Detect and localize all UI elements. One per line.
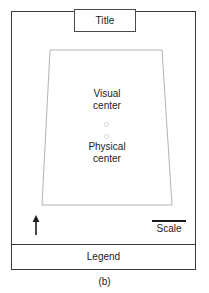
title-box-label: Title	[95, 16, 114, 26]
figure-caption: (b)	[0, 276, 209, 287]
north-arrow-icon	[30, 214, 42, 236]
title-box[interactable]: Title	[74, 9, 136, 32]
scale-bar-icon	[152, 220, 186, 222]
scale-label: Scale	[148, 223, 190, 234]
physical-center-label-line2: center	[62, 153, 152, 165]
visual-center-marker-icon	[104, 122, 109, 127]
map-layout-figure: Title Visual center Physical center Scal…	[0, 0, 209, 293]
physical-center-label: Physical center	[62, 141, 152, 164]
legend-box[interactable]: Legend	[11, 244, 196, 270]
map-body-outline	[42, 50, 172, 205]
scale-bar-group: Scale	[148, 220, 190, 234]
visual-center-label-line1: Visual	[62, 88, 152, 100]
physical-center-label-line1: Physical	[62, 141, 152, 153]
visual-center-label: Visual center	[62, 88, 152, 111]
legend-box-label: Legend	[87, 252, 120, 262]
physical-center-marker-icon	[104, 134, 109, 139]
visual-center-label-line2: center	[62, 100, 152, 112]
